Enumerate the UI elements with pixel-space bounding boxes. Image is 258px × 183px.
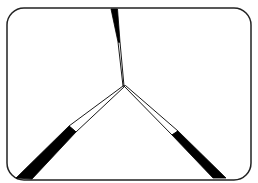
wedge-top-solid bbox=[111, 9, 120, 42]
wedge-bottom-left-hollow bbox=[69, 86, 125, 132]
diagram-canvas bbox=[0, 0, 258, 183]
wedge-group bbox=[16, 9, 226, 179]
diagram-svg bbox=[0, 0, 258, 183]
wedge-bottom-left-solid bbox=[16, 126, 76, 179]
wedge-bottom-right-hollow bbox=[124, 86, 178, 136]
wedge-top-hollow bbox=[118, 42, 124, 86]
wedge-bottom-right-solid bbox=[172, 131, 226, 178]
